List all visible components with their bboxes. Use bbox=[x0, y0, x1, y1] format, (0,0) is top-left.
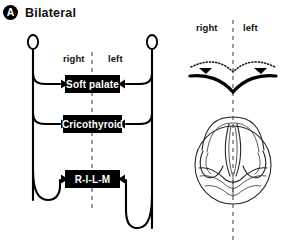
palate-arrow-left bbox=[254, 68, 267, 74]
laryngoscopic-view bbox=[195, 117, 271, 204]
left-vocal-fold-inner bbox=[234, 126, 237, 174]
right-diagram-art bbox=[0, 0, 288, 245]
figure-panel-a: A Bilateral right left bbox=[0, 0, 288, 245]
palate-arrow-right bbox=[199, 68, 212, 74]
left-fold-inner-line bbox=[255, 153, 260, 174]
right-fold-inner-line bbox=[206, 153, 211, 174]
right-vocal-fold-inner bbox=[229, 126, 232, 174]
